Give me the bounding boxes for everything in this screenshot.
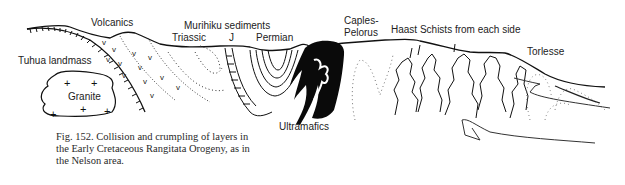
caption-line-2: the Early Cretaceous Rangitata Orogeny, … bbox=[56, 143, 296, 155]
svg-text:v: v bbox=[150, 91, 154, 100]
svg-text:v: v bbox=[176, 83, 180, 92]
label-torlesse: Torlesse bbox=[527, 46, 564, 57]
svg-text:+: + bbox=[80, 103, 86, 115]
jurassic-layer bbox=[225, 48, 272, 116]
collision-arrow[interactable] bbox=[462, 78, 610, 143]
svg-text:v: v bbox=[148, 53, 152, 62]
label-volcanics: Volcanics bbox=[91, 17, 133, 28]
label-haast: Haast Schists from each side bbox=[391, 24, 521, 35]
svg-text:+: + bbox=[91, 77, 97, 89]
figure-caption: Fig. 152. Collision and crumpling of lay… bbox=[56, 131, 296, 167]
haast-schist-folds bbox=[394, 44, 528, 118]
caples-folds bbox=[352, 55, 393, 120]
svg-text:+: + bbox=[50, 108, 56, 120]
svg-text:v: v bbox=[122, 71, 126, 80]
label-granite: Granite bbox=[68, 91, 101, 102]
caption-line-1: Fig. 152. Collision and crumpling of lay… bbox=[56, 131, 296, 143]
label-tuhua: Tuhua landmass bbox=[18, 55, 92, 66]
svg-text:v: v bbox=[102, 38, 106, 47]
label-caples: Caples- bbox=[344, 15, 378, 26]
label-murihiku: Murihiku sediments bbox=[184, 20, 270, 31]
svg-text:v: v bbox=[143, 77, 147, 86]
svg-text:v: v bbox=[160, 73, 164, 82]
label-jurassic: J bbox=[229, 32, 234, 43]
svg-text:v: v bbox=[118, 59, 122, 68]
svg-text:+: + bbox=[104, 105, 110, 117]
svg-text:v: v bbox=[112, 45, 116, 54]
volcanic-symbols: vvvv vvvv vvvv bbox=[102, 38, 180, 100]
label-pelorus: Pelorus bbox=[344, 27, 378, 38]
label-permian: Permian bbox=[256, 32, 293, 43]
label-triassic: Triassic bbox=[172, 32, 206, 43]
svg-text:+: + bbox=[64, 77, 70, 89]
ultramafics-body bbox=[290, 41, 344, 125]
svg-text:v: v bbox=[106, 55, 110, 64]
caption-line-3: the Nelson area. bbox=[56, 155, 296, 167]
